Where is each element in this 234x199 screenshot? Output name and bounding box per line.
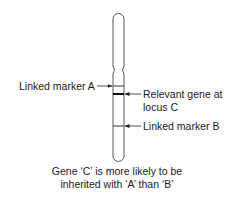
caption-line-2: inherited with ‘A’ than ‘B’: [0, 178, 234, 191]
label-marker-b: Linked marker B: [143, 120, 219, 132]
label-marker-a: Linked marker A: [19, 80, 95, 92]
linkage-diagram: Linked marker A Relevant gene at locus C…: [0, 0, 234, 199]
label-gene-c-line1: Relevant gene at: [143, 88, 222, 100]
caption-line-1: Gene ‘C’ is more likely to be: [0, 165, 234, 178]
chromosome-outline: [113, 14, 124, 162]
label-gene-c-line2: locus C: [143, 101, 178, 113]
